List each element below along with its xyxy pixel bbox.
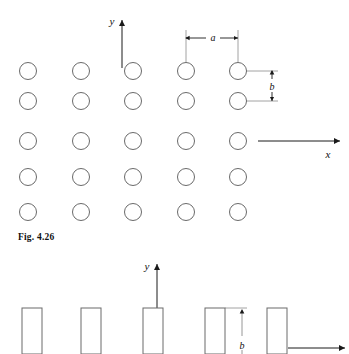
aperture-circle [125,204,142,221]
top-y-axis-label: y [109,15,115,27]
strip-rect [267,308,287,354]
strip-rect [205,308,225,354]
aperture-circle [230,63,247,80]
aperture-circle [178,63,195,80]
strip-rect [22,308,42,354]
top-x-axis-label: x [325,148,331,160]
aperture-circle [73,133,90,150]
dimension-b-group: b [246,71,279,101]
aperture-circle [73,204,90,221]
bottom-y-axis: y [144,260,157,308]
aperture-circle [178,204,195,221]
aperture-circle [20,63,37,80]
aperture-circle [20,169,37,186]
top-figure-group: y x a b [20,15,341,221]
aperture-circle [73,169,90,186]
aperture-circle [178,93,195,110]
bottom-y-axis-label: y [144,260,150,272]
technical-figure-canvas: y x a b [0,0,349,354]
figure-page: y x a b [0,0,349,354]
strip-rect [143,308,163,354]
aperture-circle [230,93,247,110]
bottom-dimension-b-group: b [225,308,249,354]
aperture-circle [125,63,142,80]
aperture-circle [125,93,142,110]
bottom-figure-group: y b [22,260,345,354]
aperture-circle [230,169,247,186]
dimension-b-label: b [270,81,275,92]
aperture-circle [20,204,37,221]
top-y-axis: y [109,15,122,68]
top-x-axis: x [258,141,340,160]
aperture-circle [178,133,195,150]
aperture-circle [73,63,90,80]
dimension-a-label: a [211,32,216,43]
aperture-circle [73,93,90,110]
strip-rect [81,308,101,354]
figure-caption: Fig. 4.26 [18,232,54,242]
aperture-circle [125,169,142,186]
circle-lattice [20,63,247,221]
aperture-circle [230,133,247,150]
bottom-dimension-b-label: b [240,340,245,351]
aperture-circle [230,204,247,221]
aperture-circle [20,133,37,150]
dimension-a-group: a [186,29,238,62]
aperture-circle [125,133,142,150]
aperture-circle [20,93,37,110]
aperture-circle [178,169,195,186]
